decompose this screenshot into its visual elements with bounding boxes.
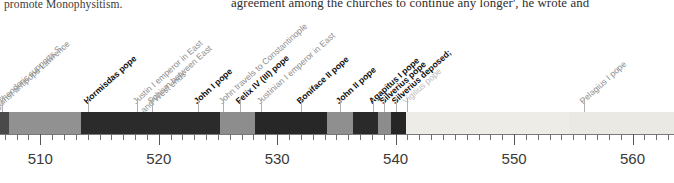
event-leader-line — [88, 98, 89, 112]
axis-tick-major — [396, 134, 397, 145]
axis-tick-label: 510 — [28, 150, 53, 167]
timeline-bar — [0, 112, 674, 134]
timeline-axis — [0, 134, 674, 148]
axis-tick-minor — [502, 134, 503, 140]
axis-tick-minor — [348, 134, 349, 140]
axis-tick-minor — [668, 134, 669, 140]
timeline-segment — [353, 112, 378, 134]
axis-tick-minor — [206, 134, 207, 140]
event-leader-line — [396, 98, 397, 112]
event-leader-line — [407, 98, 408, 112]
axis-tick-minor — [218, 134, 219, 140]
axis-tick-major — [633, 134, 634, 145]
event-leader-line — [152, 98, 153, 112]
axis-tick-minor — [656, 134, 657, 140]
axis-tick-minor — [301, 134, 302, 140]
event-leader-line — [301, 98, 302, 112]
axis-tick-minor — [76, 134, 77, 140]
axis-tick-minor — [194, 134, 195, 140]
axis-tick-minor — [100, 134, 101, 140]
axis-tick-minor — [88, 134, 89, 140]
axis-tick-minor — [230, 134, 231, 140]
axis-tick-minor — [289, 134, 290, 140]
axis-tick-minor — [538, 134, 539, 140]
axis-tick-minor — [609, 134, 610, 140]
axis-tick-minor — [585, 134, 586, 140]
axis-tick-minor — [242, 134, 243, 140]
axis-tick-minor — [644, 134, 645, 140]
event-leader-line — [384, 98, 385, 112]
axis-tick-minor — [182, 134, 183, 140]
axis-tick-minor — [5, 134, 6, 140]
timeline-segment — [569, 112, 674, 134]
timeline-figure: promote Monophysitism. agreement among t… — [0, 0, 674, 183]
axis-tick-minor — [52, 134, 53, 140]
axis-tick-minor — [431, 134, 432, 140]
axis-tick-minor — [407, 134, 408, 140]
axis-tick-minor — [372, 134, 373, 140]
axis-tick-minor — [28, 134, 29, 140]
axis-tick-minor — [455, 134, 456, 140]
axis-tick-minor — [561, 134, 562, 140]
axis-tick-minor — [384, 134, 385, 140]
event-leader-line — [2, 98, 3, 112]
axis-tick-minor — [64, 134, 65, 140]
axis-tick-minor — [550, 134, 551, 140]
timeline-segment — [391, 112, 406, 134]
axis-tick-minor — [325, 134, 326, 140]
event-leader-line — [373, 98, 374, 112]
event-leader-line — [240, 98, 241, 112]
timeline-segment — [0, 112, 9, 134]
timeline-segment — [406, 112, 568, 134]
timeline-segment — [378, 112, 391, 134]
axis-tick-minor — [490, 134, 491, 140]
event-leader-line — [261, 98, 262, 112]
timeline-segment — [220, 112, 254, 134]
timeline-segment — [255, 112, 327, 134]
axis-tick-label: 540 — [383, 150, 408, 167]
axis-tick-minor — [111, 134, 112, 140]
axis-tick-minor — [597, 134, 598, 140]
axis-tick-minor — [135, 134, 136, 140]
axis-tick-minor — [147, 134, 148, 140]
axis-tick-minor — [253, 134, 254, 140]
event-leader-line — [584, 98, 585, 112]
axis-tick-minor — [313, 134, 314, 140]
axis-tick-minor — [419, 134, 420, 140]
timeline-segment — [81, 112, 221, 134]
axis-tick-minor — [336, 134, 337, 140]
event-leader-line — [340, 98, 341, 112]
axis-tick-major — [277, 134, 278, 145]
axis-tick-label: 520 — [146, 150, 171, 167]
axis-tick-label: 550 — [502, 150, 527, 167]
axis-tick-minor — [526, 134, 527, 140]
body-text-left-column: promote Monophysitism. — [4, 0, 122, 10]
axis-tick-minor — [479, 134, 480, 140]
body-text-right-column: agreement among the churches to continue… — [231, 0, 589, 11]
timeline-segment — [327, 112, 353, 134]
axis-tick-minor — [467, 134, 468, 140]
event-leader-line — [223, 98, 224, 112]
event-label: Pelagius I pope — [578, 60, 628, 106]
axis-tick-minor — [265, 134, 266, 140]
axis-tick-label: 560 — [620, 150, 645, 167]
event-leader-line — [137, 98, 138, 112]
axis-tick-label: 530 — [265, 150, 290, 167]
axis-tick-minor — [171, 134, 172, 140]
axis-tick-major — [514, 134, 515, 145]
axis-tick-minor — [621, 134, 622, 140]
axis-tick-minor — [17, 134, 18, 140]
axis-tick-minor — [443, 134, 444, 140]
event-label-continuation: against antipope Lawrence — [0, 39, 72, 114]
axis-tick-minor — [360, 134, 361, 140]
axis-tick-major — [40, 134, 41, 145]
axis-tick-minor — [123, 134, 124, 140]
axis-tick-minor — [573, 134, 574, 140]
timeline-segment — [9, 112, 80, 134]
event-leader-line — [198, 98, 199, 112]
axis-tick-major — [159, 134, 160, 145]
